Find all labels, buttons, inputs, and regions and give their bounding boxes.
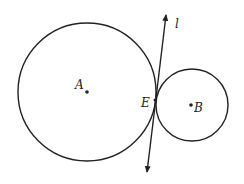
tangent-circles-diagram: A B E l	[0, 0, 244, 184]
point-A	[85, 90, 89, 94]
label-B: B	[193, 101, 203, 115]
point-B	[189, 103, 193, 107]
label-l: l	[175, 17, 179, 31]
point-E	[154, 99, 157, 102]
label-A: A	[74, 78, 84, 92]
label-E: E	[140, 96, 150, 110]
